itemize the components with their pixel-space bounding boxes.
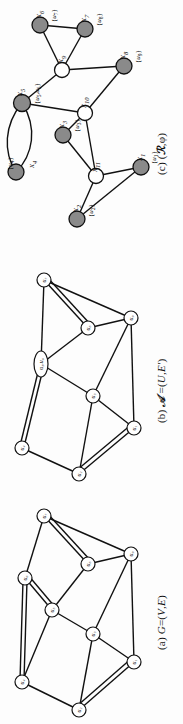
edge-u9-u3 [93, 554, 131, 634]
panel-a-edges [20, 513, 134, 710]
panel-b-nodes [15, 273, 141, 481]
node-text-u4: u₄ [19, 679, 25, 684]
node-label-x10: x10 [78, 98, 90, 109]
edge-u4-u2 [22, 682, 79, 710]
node-x7[interactable] [77, 21, 93, 37]
set-label-x2: {u2} [87, 204, 96, 217]
panel-a-nodes [15, 509, 141, 717]
edge-u6-u4-a [20, 581, 23, 680]
set-label-x7: {u8} [95, 13, 104, 26]
panel-a-caption: (a) G=(V,E) [155, 595, 167, 650]
panel-c-relation-graph: x6 x7 x8 x9 x5 x10 x3 x4 x11 x1 x2 {u7} … [0, 0, 183, 250]
edge-u5-u4 [22, 610, 52, 682]
node-x5[interactable] [14, 95, 31, 112]
node-text-u3: u₃ [90, 631, 96, 636]
node-text-u9: u₉ [128, 315, 134, 320]
node-label-x8: x8 [117, 52, 129, 59]
edge-u9-u1 [131, 554, 134, 662]
edge-u7-u8-a [44, 280, 88, 328]
edge-u56-u4-b [24, 369, 43, 447]
edge-u3-u1 [93, 396, 134, 428]
node-label-x11: x11 [89, 162, 101, 172]
node-label-x4: x4 [26, 161, 38, 168]
node-text-u7: u₇ [41, 277, 47, 282]
node-text-u8: u₈ [85, 561, 91, 566]
node-x9[interactable] [55, 63, 70, 78]
node-label-x3: x3 [56, 121, 68, 128]
node-label-x6: x6 [33, 11, 45, 18]
edge-x8-x10 [85, 66, 124, 113]
panel-a-node-labels: u₇ u₈ u₉ u₆ u₅ u₃ u₄ u₁ u₂ [19, 513, 137, 712]
node-text-u5: u₅ [49, 607, 55, 612]
node-text-u3: u₃ [90, 393, 96, 398]
node-label-x9: x9 [55, 56, 67, 63]
node-text-u5-u6: u₅,u₆ [38, 358, 44, 370]
node-label-x1: x1 [134, 154, 146, 161]
node-x1[interactable] [133, 159, 149, 175]
edge-x9-x8 [62, 66, 124, 70]
node-text-u1: u₁ [131, 659, 137, 664]
figure-page: x6 x7 x8 x9 x5 x10 x3 x4 x11 x1 x2 {u7} … [0, 0, 183, 724]
node-text-u1: u₁ [131, 425, 137, 430]
node-text-u9: u₉ [128, 551, 134, 556]
edge-u1-u2-b [77, 424, 132, 470]
node-text-u7: u₇ [41, 513, 47, 518]
edge-u4-u2 [22, 448, 79, 474]
set-label-x4: {u4} [6, 157, 15, 170]
set-label-x3: {u3} [73, 119, 82, 132]
panel-b-quotient-graph: u₇ u₈ u₉ u₅,u₆ u₃ u₄ u₁ u₂ (b) 𝒜 =(U,E') [0, 248, 183, 486]
set-label-x5: {u5,u6} [33, 83, 42, 104]
node-text-u2: u₂ [76, 707, 82, 712]
edge-u8-u56 [41, 328, 88, 364]
edge-u56-u4-a [20, 368, 39, 446]
node-x8[interactable] [116, 58, 132, 74]
node-label-x2: x2 [70, 205, 82, 212]
node-text-u6: u₆ [22, 575, 28, 580]
set-label-x8: {u9} [134, 50, 143, 63]
node-label-x7: x7 [78, 15, 90, 22]
edge-u1-u2-a [79, 662, 134, 710]
edge-u7-u8-a [44, 516, 88, 564]
edge-x5-x10 [22, 103, 85, 113]
edge-u7-u6 [25, 516, 44, 578]
edge-u9-u3 [93, 318, 131, 396]
panel-b-caption: (b) 𝒜 =(U,E') [155, 359, 168, 423]
edge-u7-u9 [44, 516, 131, 554]
node-label-x5: x5 [14, 89, 26, 96]
node-x2[interactable] [69, 211, 85, 227]
edge-u6-u4-b [24, 581, 27, 680]
edge-u1-u2-a [79, 428, 134, 474]
edge-u8-u5 [52, 564, 88, 610]
panel-a-original-graph: u₇ u₈ u₉ u₆ u₅ u₃ u₄ u₁ u₂ (a) G=(V,E) [0, 482, 183, 724]
node-text-u8: u₈ [85, 325, 91, 330]
node-x6[interactable] [32, 17, 48, 33]
node-x3[interactable] [55, 127, 71, 143]
node-text-u4: u₄ [19, 445, 25, 450]
edge-u9-u1 [131, 318, 134, 428]
panel-c-caption: (c) (ℛ,φ) [155, 133, 168, 175]
set-label-x6: {u7} [50, 9, 59, 22]
node-text-u2: u₂ [76, 471, 82, 476]
edge-u1-u2-b [77, 658, 132, 706]
edge-u56-u3 [41, 364, 93, 396]
edge-u7-u9 [44, 280, 131, 318]
